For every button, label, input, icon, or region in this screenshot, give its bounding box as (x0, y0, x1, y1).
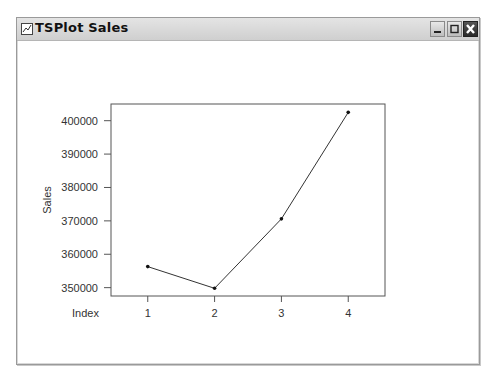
y-tick-label: 370000 (61, 215, 98, 227)
y-tick-label: 380000 (61, 181, 98, 193)
data-point (146, 265, 150, 269)
data-point-markers (146, 111, 350, 291)
y-axis: 350000360000370000380000390000400000 (61, 115, 111, 294)
plot-frame (111, 104, 385, 296)
x-tick-label: 1 (145, 307, 151, 319)
y-tick-label: 360000 (61, 248, 98, 260)
x-tick-label: 4 (345, 307, 351, 319)
x-tick-label: 3 (278, 307, 284, 319)
data-point (280, 217, 284, 221)
sales-series-line (148, 112, 348, 288)
y-tick-label: 400000 (61, 115, 98, 127)
y-tick-label: 390000 (61, 148, 98, 160)
y-axis-label: Sales (41, 186, 53, 214)
x-tick-label: 2 (212, 307, 218, 319)
x-axis-label: Index (72, 307, 99, 319)
data-point (213, 287, 217, 291)
y-tick-label: 350000 (61, 282, 98, 294)
line-chart: 350000360000370000380000390000400000 123… (0, 0, 499, 382)
x-axis: 1234 (145, 296, 352, 319)
data-point (346, 111, 350, 115)
